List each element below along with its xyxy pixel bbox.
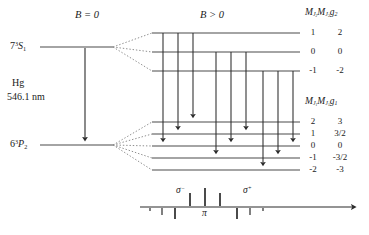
lower-mj-value: 0 [303,141,323,150]
zeeman-transitions [163,33,293,164]
zero-field-header: B = 0 [75,10,99,21]
upper-fan-lines [113,33,152,71]
lower-mjg-value: -3 [327,165,353,174]
upper-mj-value: 0 [303,47,323,56]
lower-mjg-value: 3 [327,117,353,126]
upper-col1-header: MJ2 [305,7,317,17]
lower-state-term: 63P2 [10,139,27,150]
zeeman-diagram: B = 0 B > 0 73S1 63P2 Hg 546.1 nm MJ2MJ2… [0,0,369,235]
lower-mjg-value: 0 [327,141,353,150]
lower-term-j: 2 [24,143,27,150]
with-field-header: B > 0 [200,10,224,21]
upper-mj-value: 1 [303,28,323,37]
lower-mj-value: 2 [303,117,323,126]
upper-mjg-value: -2 [327,66,353,75]
upper-mjg-value: 0 [327,47,353,56]
upper-sublevels [152,33,300,71]
upper-mj-value: -1 [303,66,323,75]
lower-mj-value: -2 [303,165,323,174]
lower-col2-header: MJ1g1 [317,96,337,106]
pi-label: π [202,209,207,219]
upper-state-term: 73S1 [10,41,26,52]
upper-col2-header: MJ2g2 [317,7,337,17]
wavelength-label: 546.1 nm [7,92,45,102]
lower-mjg-value: 3/2 [327,129,353,138]
lower-col1-header: MJ1 [305,96,317,106]
upper-term-j: 1 [23,45,26,52]
lower-table-header: MJ1MJ1g1 [305,97,337,108]
zero-field-levels [40,47,113,145]
sigma-plus-label: σ+ [243,186,252,196]
lower-mj-value: 1 [303,129,323,138]
lower-fan-lines [113,122,152,170]
element-label: Hg [12,78,24,88]
upper-table-header: MJ2MJ2g2 [305,8,337,19]
lower-mjg-value: -3/2 [327,153,353,162]
lower-mj-value: -1 [303,153,323,162]
sigma-minus-label: σ− [176,186,185,196]
upper-mjg-value: 2 [327,28,353,37]
